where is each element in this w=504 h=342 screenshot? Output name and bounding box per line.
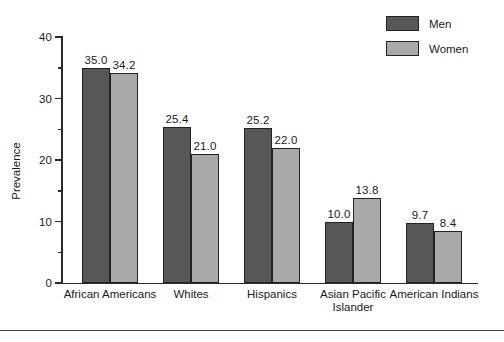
bar-men: 10.0 [325,222,353,284]
bar-value-label: 9.7 [412,209,428,221]
legend-item-men: Men [386,14,468,33]
y-tick-label: 20 [39,154,52,166]
bar-men: 25.2 [244,128,272,283]
bar-value-label: 35.0 [85,54,108,66]
bar-men: 35.0 [82,68,110,283]
bar-women: 8.4 [434,231,462,283]
plot-area: 01020304035.034.225.421.025.222.010.013.… [62,37,478,283]
y-tick-label: 10 [39,216,52,228]
y-tick-label: 40 [39,31,52,43]
y-tick-major [55,159,62,161]
bar-chart-figure: Prevalence 01020304035.034.225.421.025.2… [0,0,504,342]
y-tick-major [55,98,62,100]
legend-swatch-women-icon [386,41,419,56]
bar-value-label: 8.4 [440,217,456,229]
bar-value-label: 34.2 [113,59,136,71]
x-axis-label: American Indians [379,288,489,301]
bar-women: 21.0 [191,154,219,283]
y-tick-label: 30 [39,93,52,105]
y-tick-minor [58,129,62,131]
legend: Men Women [386,14,468,64]
y-tick-minor [58,190,62,192]
legend-item-women: Women [386,39,468,58]
y-tick-major [55,282,62,284]
bar-women: 13.8 [353,198,381,283]
y-tick-label: 0 [46,277,53,289]
legend-label-women: Women [429,43,468,55]
y-tick-minor [58,67,62,69]
legend-label-men: Men [429,18,451,30]
bar-value-label: 25.4 [166,113,189,125]
y-tick-major [55,221,62,223]
y-tick-major [55,36,62,38]
footer-divider [0,330,504,331]
bar-value-label: 21.0 [194,140,217,152]
bar-value-label: 22.0 [275,134,298,146]
bar-value-label: 25.2 [247,114,270,126]
y-axis-title: Prevalence [10,111,22,231]
legend-swatch-men-icon [386,16,419,31]
bar-women: 34.2 [110,73,138,283]
bar-men: 25.4 [163,127,191,283]
bar-women: 22.0 [272,148,300,283]
bar-value-label: 13.8 [356,184,379,196]
y-tick-minor [58,252,62,254]
bar-value-label: 10.0 [328,208,351,220]
bar-men: 9.7 [406,223,434,283]
